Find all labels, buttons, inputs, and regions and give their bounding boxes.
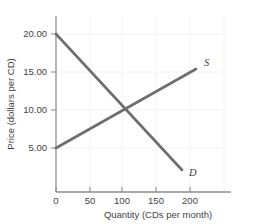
x-tick-label-100: 100 bbox=[114, 195, 130, 206]
x-axis-title: Quantity (CDs per month) bbox=[104, 209, 212, 220]
y-axis-title: Price (dollars per CD) bbox=[5, 58, 16, 149]
demand-curve bbox=[56, 34, 182, 170]
y-tick-label-10: 10.00 bbox=[23, 104, 47, 115]
x-axis-ticks bbox=[56, 187, 190, 192]
y-tick-label-20: 20.00 bbox=[23, 28, 47, 39]
chart-canvas: 20.00 15.00 10.00 5.00 0 50 100 150 200 … bbox=[0, 0, 255, 224]
supply-curve bbox=[56, 69, 196, 148]
gridlines bbox=[56, 16, 228, 192]
demand-curve-label: D bbox=[188, 167, 197, 178]
y-axis-ticks bbox=[51, 34, 56, 148]
y-tick-label-15: 15.00 bbox=[23, 66, 47, 77]
x-tick-label-50: 50 bbox=[85, 195, 96, 206]
x-tick-label-150: 150 bbox=[148, 195, 164, 206]
y-tick-label-5: 5.00 bbox=[29, 142, 48, 153]
x-tick-label-0: 0 bbox=[53, 195, 58, 206]
x-tick-label-200: 200 bbox=[182, 195, 198, 206]
supply-curve-label: S bbox=[204, 57, 210, 68]
supply-demand-chart: 20.00 15.00 10.00 5.00 0 50 100 150 200 … bbox=[0, 0, 255, 224]
